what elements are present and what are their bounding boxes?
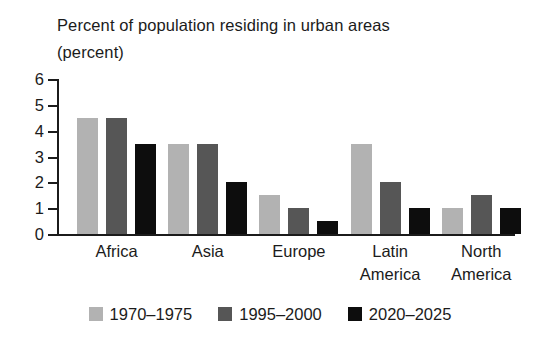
chart-title-block: Percent of population residing in urban … [57, 12, 487, 66]
y-axis-tick-label: 0 [35, 226, 44, 243]
x-axis-category-label: NorthAmerica [426, 240, 537, 286]
legend-label: 1970–1975 [110, 306, 193, 323]
x-axis-category-labels: AfricaAsiaEuropeLatinAmericaNorthAmerica [59, 240, 517, 298]
bar [77, 118, 98, 234]
legend-swatch [218, 307, 232, 321]
chart-legend: 1970–19751995–20002020–2025 [0, 306, 540, 323]
chart-subtitle: (percent) [57, 39, 487, 66]
y-axis-tick-mark [48, 208, 57, 210]
y-axis-tick-label: 3 [35, 148, 44, 165]
legend-item[interactable]: 2020–2025 [348, 306, 452, 323]
y-axis-tick-label: 1 [35, 200, 44, 217]
bar-group [259, 79, 338, 234]
legend-label: 1995–2000 [239, 306, 322, 323]
plot-area: 0123456 [57, 79, 515, 236]
bar-group [351, 79, 430, 234]
bar [197, 144, 218, 234]
bar [259, 195, 280, 234]
bar [500, 208, 521, 234]
bar [288, 208, 309, 234]
y-axis-tick-label: 2 [35, 174, 44, 191]
legend-swatch [348, 307, 362, 321]
x-axis-category-label-line: America [426, 263, 537, 286]
bar [409, 208, 430, 234]
x-axis-line [57, 234, 515, 236]
y-axis-tick-label: 6 [35, 71, 44, 88]
bar [226, 182, 247, 234]
chart-figure: Percent of population residing in urban … [0, 0, 540, 346]
bar [380, 182, 401, 234]
legend-swatch [89, 307, 103, 321]
chart-title: Percent of population residing in urban … [57, 12, 487, 39]
legend-item[interactable]: 1995–2000 [218, 306, 322, 323]
bar [168, 144, 189, 234]
x-axis-category-label-line: North [426, 240, 537, 263]
bars-layer [59, 79, 515, 234]
legend-label: 2020–2025 [369, 306, 452, 323]
bar-group [77, 79, 156, 234]
bar [106, 118, 127, 234]
y-axis-tick-label: 5 [35, 97, 44, 114]
y-axis-tick-mark [48, 182, 57, 184]
y-axis-tick-mark [48, 234, 57, 236]
bar [471, 195, 492, 234]
y-axis-tick-mark [48, 105, 57, 107]
bar [317, 221, 338, 234]
y-axis-tick-mark [48, 157, 57, 159]
y-axis-tick-label: 4 [35, 122, 44, 139]
bar-group [168, 79, 247, 234]
bar [351, 144, 372, 234]
legend-item[interactable]: 1970–1975 [89, 306, 193, 323]
y-axis-tick-mark [48, 131, 57, 133]
bar [442, 208, 463, 234]
y-axis-tick-mark [48, 79, 57, 81]
bar [135, 144, 156, 234]
bar-group [442, 79, 521, 234]
